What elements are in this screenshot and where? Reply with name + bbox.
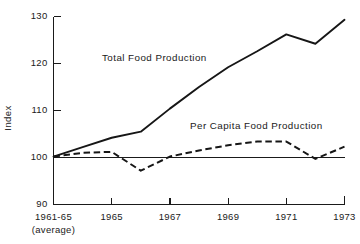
y-tick-label-120: 120	[0, 57, 48, 68]
y-tick-label-130: 130	[0, 10, 48, 21]
x-axis-ticks	[54, 196, 345, 205]
y-tick-label-110: 110	[0, 104, 48, 115]
x-tick-label-1973: 1973	[310, 211, 360, 222]
y-tick-label-100: 100	[0, 151, 48, 162]
y-axis-ticks	[54, 17, 61, 205]
x-tick-sublabel-average: (average)	[19, 224, 89, 235]
series-line-per-capita-food-production	[54, 142, 345, 171]
y-tick-label-90: 90	[0, 198, 48, 209]
series-annotation-per-capita-food-production: Per Capita Food Production	[190, 120, 323, 131]
series-annotation-total-food-production: Total Food Production	[102, 52, 207, 63]
series-line-total-food-production	[54, 20, 345, 157]
